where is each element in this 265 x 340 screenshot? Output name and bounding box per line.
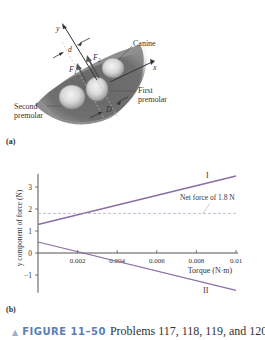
second-premolar-label-line2: premolar: [14, 111, 43, 120]
caption-triangle-icon: ▲: [12, 328, 18, 337]
panel-b-label: (b): [6, 305, 16, 314]
series-II-label: II: [203, 286, 209, 295]
x-tick-label: 0.01: [230, 257, 243, 265]
figure-number: FIGURE 11–50: [22, 326, 106, 337]
caption-text: Problems 117, 118, 119, and 120: [110, 324, 265, 338]
y-tick-label: 3: [28, 183, 32, 192]
x-axis-label: x: [152, 63, 157, 72]
d-dimension-label: d: [68, 45, 72, 54]
figure-a-teeth-diagram: y x F1 F2 d D Canine First premolar Seco…: [0, 0, 265, 160]
second-premolar-label-line1: Second: [14, 102, 38, 111]
x-tick-label: 0.006: [149, 257, 165, 265]
y-tick-label: −1: [24, 271, 32, 280]
canine-label: Canine: [133, 39, 156, 48]
y-tick-label: 1: [28, 227, 32, 236]
panel-a-label: (a): [6, 137, 15, 146]
first-premolar-label-line2: premolar: [138, 95, 167, 104]
second-premolar-tooth: [59, 85, 85, 109]
series-I-label: I: [206, 171, 209, 180]
D-dimension-label: D: [105, 105, 112, 114]
y-axis-label: y: [55, 24, 60, 33]
y-tick-label: 0: [28, 249, 32, 258]
x-tick-label: 0.008: [189, 257, 205, 265]
first-premolar-label-line1: First: [138, 86, 153, 95]
teeth-diagram-svg: y x F1 F2 d D Canine First premolar Seco…: [0, 0, 265, 160]
net-force-label: Net force of 1.8 N: [180, 193, 235, 202]
x-tick-label: 0.002: [70, 257, 86, 265]
f2-label: F2: [92, 53, 101, 63]
figure-b-chart: 3210−10.0020.0040.0060.0080.01IIINet for…: [0, 160, 265, 310]
canine-tooth: [102, 58, 124, 78]
x-axis-title: Torque (N·m): [188, 266, 233, 275]
figure-caption: ▲FIGURE 11–50Problems 117, 118, 119, and…: [12, 324, 265, 339]
y-tick-label: 2: [28, 205, 32, 214]
force-torque-chart: 3210−10.0020.0040.0060.0080.01IIINet for…: [0, 160, 265, 310]
y-axis-title: y component of force (N): [15, 189, 24, 266]
